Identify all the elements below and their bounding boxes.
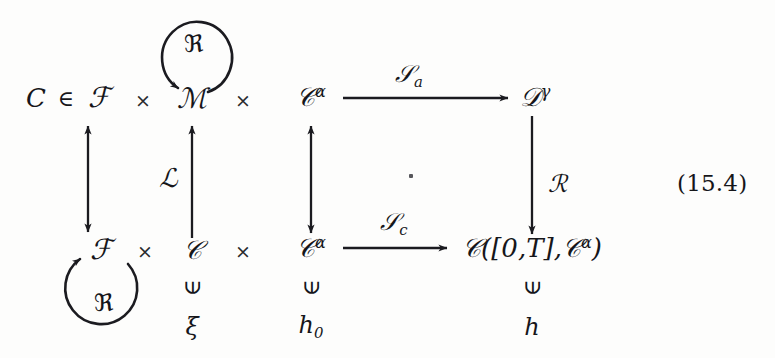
label-S-c-base: 𝒮 [380, 208, 399, 236]
node-CT-space-sup: α [581, 233, 592, 252]
node-C-alpha-bottom-sup: α [315, 233, 326, 252]
node-C-alpha-top-sup: α [315, 82, 326, 101]
label-S-c: 𝒮c [380, 210, 407, 239]
value-h0-base: h [299, 311, 314, 339]
node-F-top: ℱ [88, 84, 110, 112]
membership-icon-h0: ∈ [302, 277, 319, 300]
value-xi: ξ [185, 315, 198, 339]
node-C-element: C [26, 85, 46, 111]
membership-icon-h: ∈ [523, 277, 540, 300]
label-L-script: ℒ [159, 165, 178, 191]
label-S-a: 𝒮a [395, 62, 423, 91]
times-symbol-3: × [137, 242, 153, 261]
node-D-gamma-sup: γ [541, 82, 551, 101]
equation-number: (15.4) [677, 170, 747, 196]
label-frak-R-bottom: ℜ [94, 291, 114, 315]
node-CT-space: 𝒞([0,T],𝒞α) [462, 235, 602, 262]
times-symbol-2: × [235, 91, 251, 110]
center-dot-artifact [409, 174, 413, 178]
label-frak-R-top: ℜ [184, 32, 204, 56]
value-h: h [524, 315, 539, 339]
label-S-c-sub: c [399, 221, 407, 239]
label-S-a-sub: a [414, 73, 423, 91]
value-h0: h0 [299, 313, 324, 342]
membership-icon-xi: ∈ [183, 277, 200, 300]
node-D-gamma: 𝒟γ [520, 84, 551, 111]
times-symbol-1: × [135, 91, 151, 110]
value-h0-sub: 0 [314, 324, 323, 342]
node-F-bottom: ℱ [90, 236, 112, 264]
node-M-top: ℳ [177, 85, 207, 113]
label-S-a-base: 𝒮 [395, 60, 414, 88]
label-R-script: ℛ [548, 172, 567, 196]
node-CT-space-close: ) [592, 233, 602, 263]
node-C-alpha-bottom: 𝒞α [296, 235, 326, 262]
node-C-alpha-top: 𝒞α [296, 84, 326, 111]
arrow-layer [0, 0, 775, 358]
times-symbol-4: × [235, 242, 251, 261]
node-C-alpha-top-base: 𝒞 [296, 82, 315, 112]
node-C-alpha-bottom-base: 𝒞 [296, 233, 315, 263]
node-C-bottom: 𝒞 [183, 237, 202, 263]
diagram-canvas: C ∈ ℱ × ℳ × 𝒞α 𝒟γ ℱ × 𝒞 × 𝒞α 𝒞([0,T],𝒞α)… [0, 0, 775, 358]
node-D-gamma-base: 𝒟 [520, 82, 541, 112]
element-of-icon: ∈ [58, 88, 74, 110]
node-CT-space-base: 𝒞([0,T],𝒞 [462, 233, 581, 263]
